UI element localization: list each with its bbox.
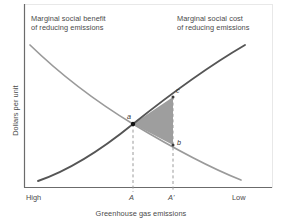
curve-label-msb: Marginal social benefit of reducing emis… bbox=[31, 14, 106, 32]
point-marker-c bbox=[172, 96, 175, 99]
point-label-c: c bbox=[176, 86, 180, 95]
chart-canvas bbox=[0, 0, 282, 223]
y-axis-title: Dollars per unit bbox=[11, 51, 20, 171]
curve-label-msc: Marginal social cost of reducing emissio… bbox=[177, 14, 250, 32]
point-label-b: b bbox=[177, 138, 181, 147]
chart-figure: Marginal social benefit of reducing emis… bbox=[0, 0, 282, 223]
x-axis-title: Greenhouse gas emissions bbox=[0, 209, 282, 218]
point-marker-a bbox=[131, 122, 135, 126]
x-tick-label-low: Low bbox=[232, 193, 246, 202]
curve-label-msc-line1: Marginal social cost bbox=[177, 14, 243, 23]
point-marker-b bbox=[172, 144, 175, 147]
x-tick-label-a: A bbox=[129, 193, 134, 202]
point-label-a: a bbox=[127, 112, 131, 121]
curve-label-msb-line2: of reducing emissions bbox=[31, 23, 104, 32]
curve-label-msc-line2: of reducing emissions bbox=[177, 23, 250, 32]
curve-label-msb-line1: Marginal social benefit bbox=[31, 14, 106, 23]
x-tick-label-a-prime: A' bbox=[168, 193, 174, 202]
x-tick-label-high: High bbox=[26, 193, 41, 202]
